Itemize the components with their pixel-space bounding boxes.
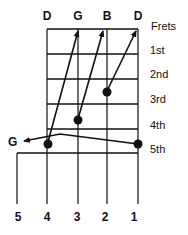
dot-string3-fret4 — [74, 116, 83, 125]
dot-string2-fret3 — [103, 88, 112, 97]
fret-label-5: 5th — [150, 143, 165, 155]
open-note-string-4: D — [43, 9, 52, 23]
fret-label-1: 1st — [150, 44, 165, 56]
string-number-3: 3 — [74, 210, 81, 224]
string-number-5: 5 — [15, 210, 22, 224]
dot-string4-fret5 — [44, 140, 53, 149]
fret-diagram: D G B D Frets 1st 2nd 3rd 4th 5th G — [0, 0, 188, 235]
string-number-4: 4 — [44, 210, 51, 224]
fifth-string-note: G — [8, 135, 17, 149]
fret-label-4: 4th — [150, 119, 165, 131]
string-number-1: 1 — [131, 210, 138, 224]
fret-label-3: 3rd — [150, 93, 166, 105]
open-note-string-3: G — [73, 9, 82, 23]
arrow-string1-to-G — [24, 134, 138, 144]
fret-label-2: 2nd — [150, 68, 168, 80]
arrow-string2-to-D — [107, 31, 136, 91]
arrows — [24, 31, 138, 144]
open-note-string-2: B — [103, 9, 112, 23]
frets-header: Frets — [151, 20, 177, 32]
finger-dots — [44, 88, 143, 149]
string-number-2: 2 — [102, 210, 109, 224]
open-note-string-1: D — [134, 9, 143, 23]
arrow-string4-to-G — [48, 31, 78, 142]
dot-string1-fret5 — [134, 140, 143, 149]
arrow-string3-to-B — [78, 31, 103, 119]
